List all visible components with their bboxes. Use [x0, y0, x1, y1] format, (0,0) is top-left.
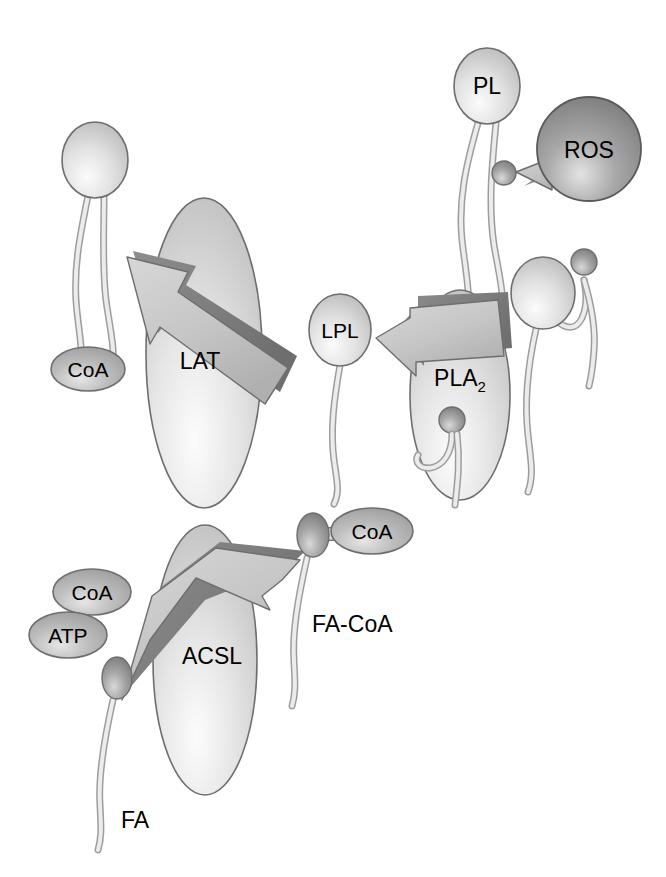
lipid-remodeling-diagram: CoA PL ROS LAT LPL — [0, 0, 666, 877]
substrate-label-atp: ATP — [48, 624, 87, 647]
substrate-oval-coa-upper-left: CoA — [51, 347, 125, 391]
substrate-label-coa: CoA — [72, 581, 113, 604]
acyl-head — [297, 513, 329, 557]
substrate-label-coa: CoA — [68, 358, 109, 381]
diagram-canvas: CoA PL ROS LAT LPL — [0, 0, 666, 877]
substrate-oval-coa-lower-left: CoA — [53, 569, 131, 615]
molecule-ros: ROS — [537, 97, 641, 201]
molecule-label-lpl: LPL — [321, 319, 358, 342]
molecule-pl: PL — [454, 48, 520, 325]
molecule-label-pl: PL — [473, 73, 501, 99]
carboxyl-head — [102, 657, 132, 699]
enzyme-label-acsl: ACSL — [182, 643, 242, 669]
lipid-head-group — [62, 122, 128, 198]
molecule-fa-coa: CoA FA-CoA — [292, 508, 413, 706]
molecule-fa: FA — [98, 657, 150, 850]
molecule-pl-right — [511, 249, 597, 492]
molecule-label-ros: ROS — [564, 137, 614, 163]
substrate-oval-atp: ATP — [29, 612, 107, 658]
enzyme-label-lat: LAT — [180, 348, 220, 374]
cleaved-acyl-sphere — [439, 407, 465, 433]
molecule-lpl: LPL — [309, 294, 371, 504]
molecule-label-fa-coa: FA-CoA — [312, 611, 393, 637]
lipid-head-group — [511, 257, 575, 329]
substrate-label-coa: CoA — [352, 520, 393, 543]
oxidized-group-sphere — [492, 161, 516, 185]
oxidized-group-sphere — [571, 249, 597, 275]
molecule-label-fa: FA — [121, 807, 150, 833]
molecule-pl-left — [62, 122, 128, 376]
